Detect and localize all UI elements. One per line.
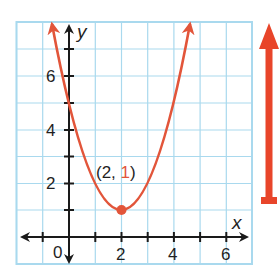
x-tick-4: 4 <box>168 245 177 264</box>
grid <box>17 22 253 264</box>
opens-upward-arrow-icon <box>259 23 279 204</box>
x-tick-2: 2 <box>116 245 125 264</box>
parabola-graph: y x 6 4 2 0 2 4 6 (2, 1) <box>0 0 280 274</box>
y-axis-label: y <box>75 21 88 42</box>
y-tick-4: 4 <box>46 121 55 140</box>
origin-label: 0 <box>53 243 62 262</box>
y-tick-2: 2 <box>46 174 55 193</box>
x-tick-6: 6 <box>221 245 230 264</box>
axes <box>22 26 247 262</box>
y-tick-6: 6 <box>46 67 55 86</box>
vertex-label: (2, 1) <box>96 163 136 182</box>
x-axis-label: x <box>231 212 243 233</box>
vertex-point <box>117 205 127 215</box>
grid-border <box>17 22 253 264</box>
vertex-y-value: 1 <box>121 163 130 182</box>
